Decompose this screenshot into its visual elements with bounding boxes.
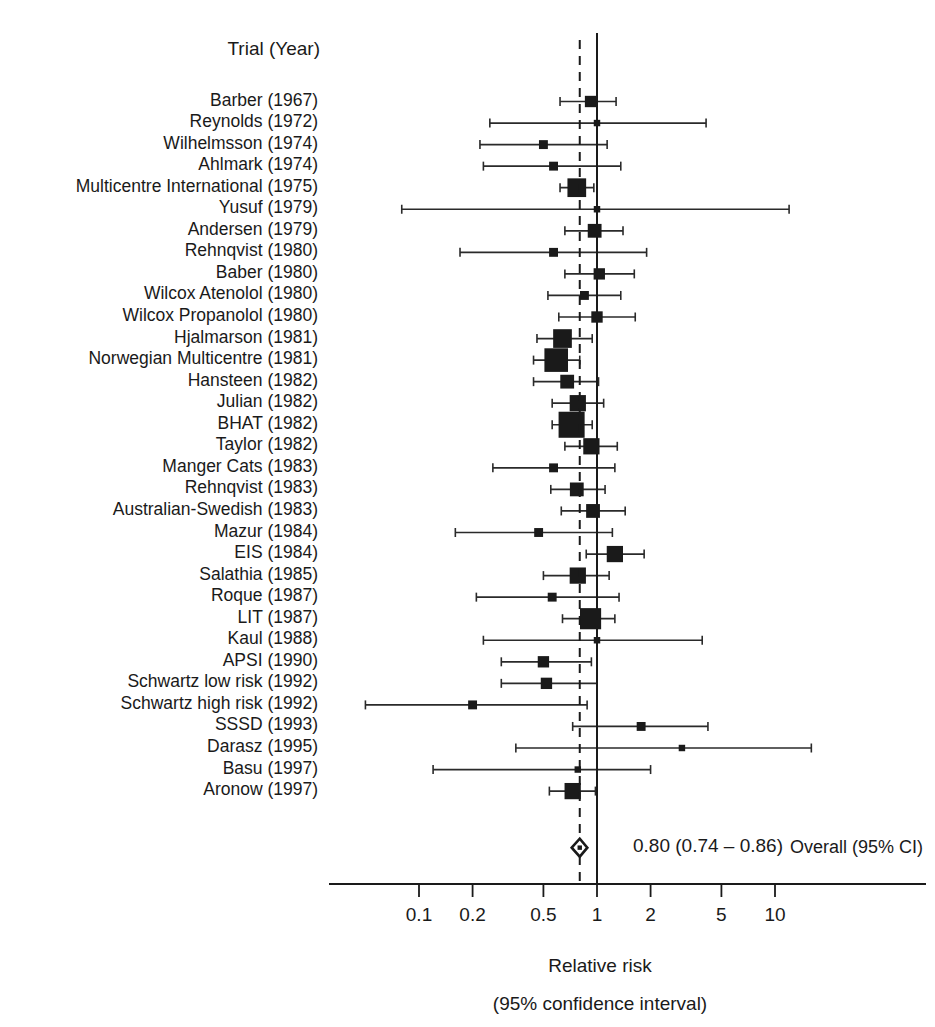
effect-size-marker	[580, 291, 589, 300]
x-axis	[329, 884, 926, 897]
trial-label: Rehnqvist (1983)	[185, 479, 318, 497]
effect-size-marker	[544, 348, 568, 372]
trial-label: Yusuf (1979)	[219, 199, 318, 217]
x-axis-title-line2: (95% confidence interval)	[493, 993, 707, 1015]
trial-label: Schwartz low risk (1992)	[127, 673, 318, 691]
trial-label: Baber (1980)	[216, 264, 318, 282]
trial-label: Hansteen (1982)	[188, 372, 318, 390]
effect-size-marker	[594, 268, 605, 279]
effect-size-marker	[549, 463, 558, 472]
trial-label: Wilcox Propanolol (1980)	[122, 307, 318, 325]
effect-size-marker	[549, 248, 558, 257]
trial-label: Reynolds (1972)	[190, 113, 318, 131]
trial-label: Schwartz high risk (1992)	[121, 695, 318, 713]
effect-size-marker	[549, 162, 558, 171]
trial-label: SSSD (1993)	[215, 716, 318, 734]
trial-label: Basu (1997)	[223, 760, 318, 778]
effect-size-marker	[553, 329, 572, 348]
forest-plot: Trial (Year) Barber (1967)Reynolds (1972…	[0, 0, 935, 1027]
x-axis-tick-label: 2	[645, 904, 656, 926]
overall-diamond	[572, 839, 588, 857]
effect-size-markers	[468, 96, 685, 799]
trial-label-column: Barber (1967)Reynolds (1972)Wilhelmsson …	[0, 0, 330, 1027]
trial-label: Mazur (1984)	[214, 523, 318, 541]
overall-label: Overall (95% CI)	[790, 837, 923, 858]
x-axis-tick-label: 10	[764, 904, 785, 926]
trial-label: Hjalmarson (1981)	[174, 329, 318, 347]
effect-size-marker	[541, 678, 552, 689]
x-axis-tick-label: 0.1	[406, 904, 432, 926]
effect-size-marker	[567, 178, 586, 197]
effect-size-marker	[570, 483, 584, 497]
trial-label: Barber (1967)	[210, 92, 318, 110]
trial-label: Wilhelmsson (1974)	[163, 135, 318, 153]
trial-label: Manger Cats (1983)	[162, 458, 318, 476]
trial-label: Salathia (1985)	[199, 566, 318, 584]
effect-size-marker	[468, 700, 477, 709]
trial-label: Darasz (1995)	[207, 738, 318, 756]
trial-label: Roque (1987)	[211, 587, 318, 605]
trial-label: Wilcox Atenolol (1980)	[144, 285, 318, 303]
overall-diamond-center	[578, 845, 582, 849]
trial-label: Taylor (1982)	[216, 436, 318, 454]
trial-label: EIS (1984)	[234, 544, 318, 562]
trial-label: Julian (1982)	[217, 393, 318, 411]
trial-label: Ahlmark (1974)	[198, 156, 318, 174]
overall-value-text: 0.80 (0.74 – 0.86)	[633, 835, 783, 857]
effect-size-marker	[534, 528, 543, 537]
effect-size-marker	[679, 745, 685, 751]
trial-label: Australian-Swedish (1983)	[113, 501, 318, 519]
effect-size-marker	[570, 567, 586, 583]
x-axis-title-line1: Relative risk	[548, 955, 651, 977]
effect-size-marker	[588, 224, 602, 238]
trial-label: Multicentre International (1975)	[76, 178, 318, 196]
x-axis-tick-label: 1	[592, 904, 603, 926]
x-axis-tick-label: 0.2	[459, 904, 485, 926]
effect-size-marker	[548, 593, 557, 602]
trial-label: Norwegian Multicentre (1981)	[88, 350, 318, 368]
trial-label: Rehnqvist (1980)	[185, 242, 318, 260]
trial-label: BHAT (1982)	[217, 415, 318, 433]
effect-size-marker	[560, 375, 574, 389]
x-axis-tick-label: 5	[716, 904, 727, 926]
trial-label: Kaul (1988)	[228, 630, 318, 648]
trial-label: LIT (1987)	[238, 609, 318, 627]
effect-size-marker	[570, 395, 586, 411]
trial-label: Andersen (1979)	[188, 221, 318, 239]
x-axis-tick-label: 0.5	[530, 904, 556, 926]
effect-size-marker	[607, 546, 623, 562]
trial-label: Aronow (1997)	[203, 781, 318, 799]
effect-size-marker	[538, 656, 549, 667]
effect-size-marker	[565, 783, 581, 799]
effect-size-marker	[637, 722, 646, 731]
effect-size-marker	[539, 140, 548, 149]
effect-size-marker	[585, 96, 596, 107]
trial-label: APSI (1990)	[223, 652, 318, 670]
reference-lines	[580, 33, 597, 884]
